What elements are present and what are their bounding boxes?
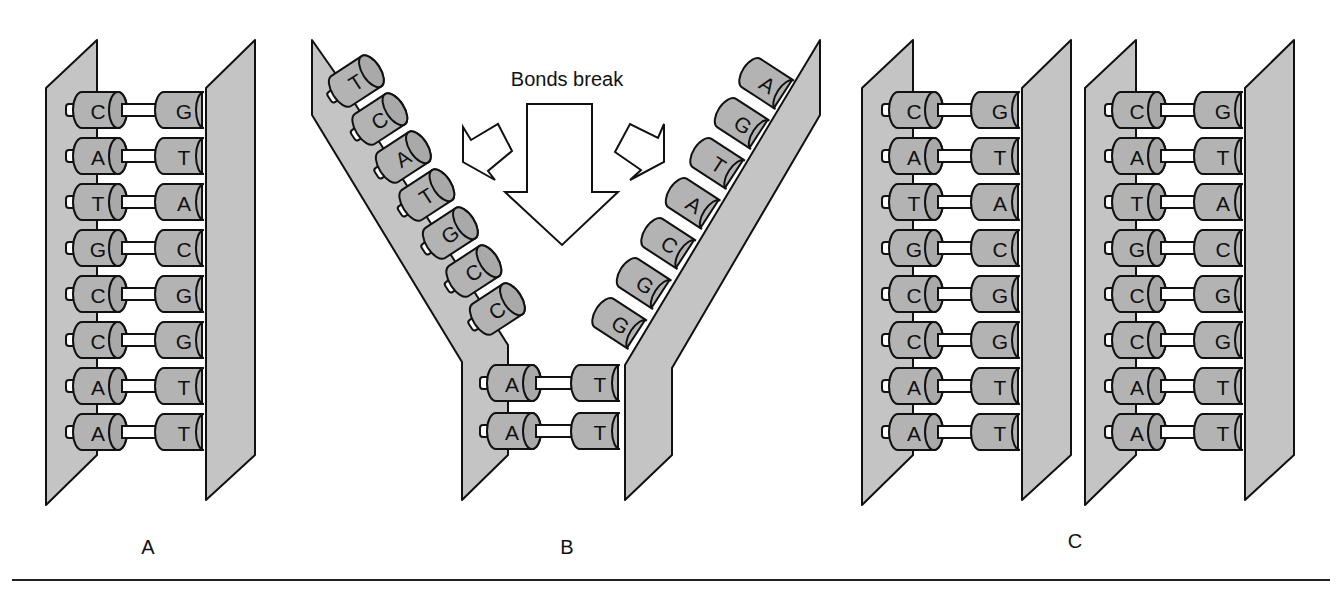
separated-base-g-right: G [587, 294, 647, 349]
panel-c-daughter-dna-1: CGATTAGCCGCGATAT [862, 40, 1071, 505]
base-letter: C [906, 284, 921, 307]
base-a-left: A [882, 414, 982, 450]
base-letter: C [90, 330, 105, 353]
base-g-left: G [66, 230, 166, 266]
base-t-right: T [1194, 414, 1243, 450]
base-letter: A [907, 376, 921, 399]
base-t-right: T [155, 368, 204, 404]
base-c-right: C [971, 230, 1020, 266]
base-letter: A [91, 146, 105, 169]
base-letter: G [176, 284, 192, 307]
base-letter: T [994, 422, 1007, 445]
base-letter: A [993, 192, 1007, 215]
base-letter: A [1130, 422, 1144, 445]
base-a-left: A [882, 368, 982, 404]
base-a-left: A [480, 413, 582, 449]
base-letter: A [907, 146, 921, 169]
base-a-right: A [971, 184, 1020, 220]
right-outward-arrow-icon [615, 124, 664, 180]
base-letter: C [1129, 100, 1144, 123]
base-c-left: C [1105, 322, 1205, 358]
big-down-arrow-icon [505, 104, 618, 245]
base-letter: C [906, 100, 921, 123]
base-c-left: C [1105, 276, 1205, 312]
base-letter: A [91, 422, 105, 445]
base-letter: A [907, 422, 921, 445]
right-backbone-strand [206, 40, 255, 500]
base-letter: C [1215, 238, 1230, 261]
base-letter: G [1215, 330, 1231, 353]
base-c-left: C [66, 92, 166, 128]
base-t-right: T [1194, 138, 1243, 174]
base-letter: A [1130, 146, 1144, 169]
base-letter: C [1129, 284, 1144, 307]
base-letter: A [505, 373, 519, 396]
base-letter: T [178, 376, 191, 399]
base-a-left: A [66, 368, 166, 404]
dna-replication-diagram: CGATTAGCCGCGATAT TCATGCCAGTACGGATAT CGAT… [0, 0, 1342, 590]
base-a-right: A [155, 184, 204, 220]
base-letter: T [178, 146, 191, 169]
base-c-right: C [1194, 230, 1243, 266]
right-backbone-strand [1245, 40, 1294, 500]
base-a-left: A [1105, 368, 1205, 404]
base-c-right: C [155, 230, 204, 266]
base-letter: T [594, 421, 607, 444]
left-outward-arrow-icon [463, 124, 512, 180]
base-t-left: T [1105, 184, 1205, 220]
right-backbone-strand [1022, 40, 1071, 500]
base-letter: G [90, 238, 106, 261]
base-t-left: T [882, 184, 982, 220]
base-letter: T [92, 192, 105, 215]
base-g-right: G [1194, 276, 1243, 312]
base-a-left: A [66, 138, 166, 174]
base-g-right: G [971, 322, 1020, 358]
base-t-right: T [155, 138, 204, 174]
base-c-left: C [66, 276, 166, 312]
base-c-left: C [882, 276, 982, 312]
base-c-left: C [882, 322, 982, 358]
base-letter: G [992, 284, 1008, 307]
base-t-right: T [971, 414, 1020, 450]
base-letter: T [594, 373, 607, 396]
base-letter: T [994, 146, 1007, 169]
base-letter: A [177, 192, 191, 215]
base-g-right: G [1194, 322, 1243, 358]
panel-label-a: A [141, 536, 155, 558]
base-letter: T [994, 376, 1007, 399]
base-a-left: A [882, 138, 982, 174]
base-letter: T [1131, 192, 1144, 215]
bonds-break-label: Bonds break [511, 68, 624, 90]
panel-a-intact-dna: CGATTAGCCGCGATAT [46, 40, 255, 505]
base-g-right: G [155, 92, 204, 128]
base-c-left: C [882, 92, 982, 128]
base-letter: C [90, 100, 105, 123]
base-t-right: T [971, 138, 1020, 174]
base-t-right: T [571, 413, 620, 449]
base-letter: A [91, 376, 105, 399]
base-letter: G [992, 100, 1008, 123]
base-letter: T [178, 422, 191, 445]
base-letter: G [906, 238, 922, 261]
base-a-left: A [66, 414, 166, 450]
base-letter: C [176, 238, 191, 261]
base-letter: G [1129, 238, 1145, 261]
base-t-left: T [66, 184, 166, 220]
base-a-left: A [1105, 414, 1205, 450]
base-c-left: C [1105, 92, 1205, 128]
base-letter: G [1215, 284, 1231, 307]
base-letter: A [1130, 376, 1144, 399]
base-t-right: T [1194, 368, 1243, 404]
base-g-right: G [971, 276, 1020, 312]
base-c-left: C [66, 322, 166, 358]
base-g-right: G [155, 276, 204, 312]
base-a-left: A [480, 365, 582, 401]
base-a-left: A [1105, 138, 1205, 174]
base-g-right: G [971, 92, 1020, 128]
base-letter: C [906, 330, 921, 353]
base-letter: T [908, 192, 921, 215]
base-t-right: T [971, 368, 1020, 404]
base-g-right: G [155, 322, 204, 358]
base-letter: G [176, 330, 192, 353]
base-g-right: G [1194, 92, 1243, 128]
